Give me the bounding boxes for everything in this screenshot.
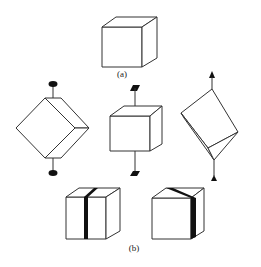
cube-b1: [16, 81, 89, 176]
ellipse-marker-bottom-icon: [49, 170, 58, 176]
caption-a: (a): [117, 69, 127, 79]
cube-a-front: [102, 27, 142, 67]
cube-b5-front: [152, 198, 191, 239]
cube-a-clean: [102, 17, 157, 67]
cube-b2-front: [110, 116, 150, 151]
cube-b2: [110, 85, 162, 176]
triangle-marker-bottom-icon: [211, 175, 217, 181]
ellipse-marker-top-icon: [49, 81, 58, 87]
figure-canvas: (a): [0, 0, 261, 267]
cube-b4-right: [106, 188, 120, 239]
cube-b3: [181, 71, 238, 181]
band-right: [191, 198, 196, 239]
triangle-marker-top-icon: [209, 71, 215, 78]
cube-b5: [152, 188, 204, 239]
caption-b: (b): [129, 243, 140, 253]
band-front: [84, 197, 88, 239]
cube-b4: [66, 188, 120, 239]
flag-marker-bottom-icon: [130, 171, 140, 176]
